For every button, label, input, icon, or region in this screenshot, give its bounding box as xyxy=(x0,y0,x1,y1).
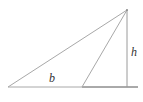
apex-point xyxy=(126,9,128,11)
triangle-diagram: b h xyxy=(0,0,143,102)
triangle-right-side xyxy=(82,10,127,87)
height-label: h xyxy=(131,45,137,59)
base-label: b xyxy=(49,71,55,85)
triangle-left-side xyxy=(8,10,127,87)
